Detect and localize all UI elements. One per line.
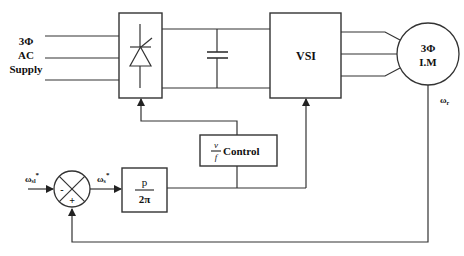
svg-text:Supply: Supply	[9, 63, 43, 75]
sync-speed-signal: ωs*	[90, 171, 121, 189]
svg-text:p: p	[142, 176, 148, 188]
rectifier-block	[119, 13, 162, 98]
svg-text:ωs*: ωs*	[97, 171, 110, 184]
vsi-block: VSI	[270, 13, 341, 98]
svg-text:v: v	[214, 140, 218, 150]
induction-motor: 3Φ I.M	[397, 23, 459, 85]
svg-text:+: +	[69, 195, 75, 206]
svg-text:I.M: I.M	[419, 56, 437, 68]
motor-lines	[341, 32, 400, 76]
svg-text:-: -	[60, 184, 63, 195]
svg-text:ωsl*: ωsl*	[25, 171, 40, 184]
vsi-label: VSI	[296, 49, 316, 63]
svg-text:3Φ: 3Φ	[19, 35, 34, 47]
dc-link	[162, 29, 270, 88]
svg-text:2π: 2π	[139, 193, 151, 205]
supply-label: 3Φ AC Supply	[9, 35, 43, 75]
vf-control-block: v f Control	[200, 135, 277, 166]
summing-junction: - +	[54, 171, 90, 207]
vf-control-diagram: 3Φ AC Supply VSI	[0, 0, 464, 256]
slip-speed-input: ωsl*	[25, 171, 53, 189]
supply-lines	[45, 36, 119, 80]
voltage-command-path	[141, 99, 237, 135]
gain-block: p 2π	[122, 168, 167, 212]
omega-r-label: ωr	[440, 95, 450, 106]
svg-text:AC: AC	[18, 49, 34, 61]
vf-control-label: Control	[223, 145, 259, 157]
svg-text:3Φ: 3Φ	[421, 42, 436, 54]
capacitor-icon	[207, 29, 228, 88]
